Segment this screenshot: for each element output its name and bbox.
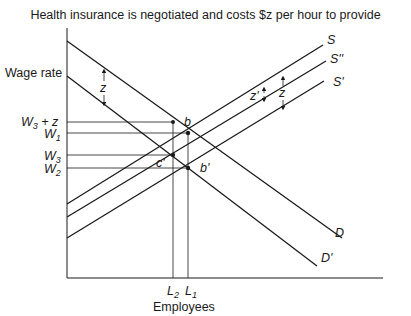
label-s: S	[327, 33, 336, 47]
supply-shift-full-label: z	[278, 86, 286, 100]
label-s-double-prime: S''	[330, 52, 344, 66]
demand-curve-d-prime	[67, 76, 317, 266]
point-b-prime	[186, 166, 190, 170]
labor-market-diagram: z z z' S S'' S' D D' b b' c' Wage rate W…	[0, 0, 411, 316]
demand-shift-label: z	[99, 81, 107, 95]
tick-l2: L2	[167, 284, 179, 300]
tick-w1: W1	[44, 127, 61, 143]
label-point-b-prime: b'	[200, 161, 210, 175]
label-d-prime: D'	[321, 251, 333, 265]
point-c-prime	[171, 153, 175, 157]
y-axis-label: Wage rate	[5, 66, 62, 80]
tick-l1: L1	[185, 284, 197, 300]
point-w3z	[171, 120, 175, 124]
point-b	[186, 131, 190, 135]
label-point-b: b	[184, 115, 191, 129]
x-axis-label: Employees	[153, 300, 215, 314]
label-point-c-prime: c'	[156, 156, 165, 170]
label-d: D	[335, 226, 344, 240]
demand-curve-d	[67, 41, 342, 238]
supply-shift-partial-label: z'	[249, 89, 259, 103]
label-s-prime: S'	[333, 75, 344, 89]
